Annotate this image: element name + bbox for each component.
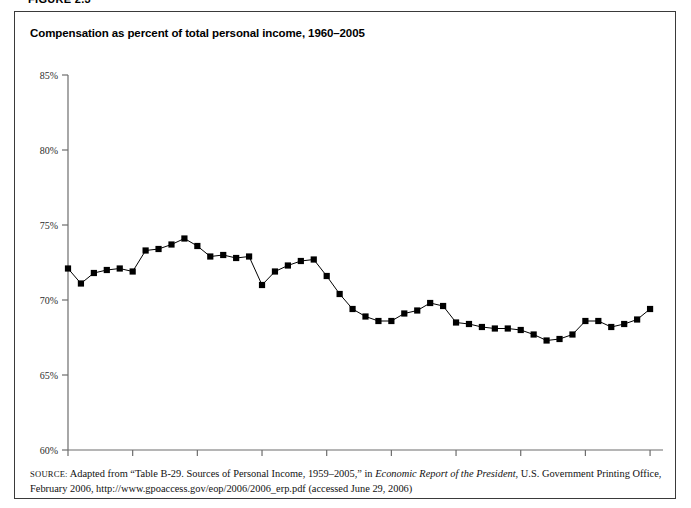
data-point-marker <box>220 252 226 258</box>
data-point-marker <box>311 256 317 262</box>
source-text-b: , U.S. Government Printing Office, <box>516 468 662 479</box>
data-point-marker <box>324 273 330 279</box>
data-point-marker <box>582 318 588 324</box>
line-chart-svg: 60%65%70%75%80%85% 196019651970197519801… <box>15 57 675 462</box>
data-point-marker <box>634 316 640 322</box>
data-point-marker <box>440 303 446 309</box>
data-point-marker <box>194 243 200 249</box>
data-point-marker <box>621 321 627 327</box>
data-point-marker <box>143 247 149 253</box>
data-point-marker <box>492 325 498 331</box>
data-point-marker <box>401 310 407 316</box>
y-axis: 60%65%70%75%80%85% <box>40 70 68 456</box>
data-point-marker <box>531 331 537 337</box>
data-point-marker <box>259 282 265 288</box>
data-point-marker <box>466 321 472 327</box>
data-point-marker <box>285 262 291 268</box>
x-axis-tick-label: 1985 <box>381 460 401 462</box>
source-publication-title: Economic Report of the President <box>375 468 515 479</box>
data-point-marker <box>543 337 549 343</box>
y-axis-tick-label: 80% <box>40 145 58 156</box>
x-axis-tick-label: 1970 <box>187 460 207 462</box>
data-point-marker <box>207 253 213 259</box>
data-point-marker <box>349 306 355 312</box>
figure-label: FIGURE 2.3 <box>28 0 91 5</box>
x-axis: 1960196519701975198019851990199520002005 <box>58 450 663 462</box>
data-point-marker <box>647 306 653 312</box>
data-point-marker <box>595 318 601 324</box>
figure-box: Compensation as percent of total persona… <box>14 11 676 499</box>
x-axis-tick-label: 1990 <box>446 460 466 462</box>
data-point-marker <box>65 265 71 271</box>
data-point-marker <box>130 268 136 274</box>
data-point-marker <box>569 331 575 337</box>
data-point-marker <box>117 265 123 271</box>
y-axis-tick-label: 60% <box>40 445 58 456</box>
y-axis-tick-label: 85% <box>40 70 58 81</box>
data-point-marker <box>414 307 420 313</box>
x-axis-tick-label: 1965 <box>123 460 143 462</box>
data-point-marker <box>298 258 304 264</box>
x-axis-tick-label: 2000 <box>575 460 595 462</box>
source-text-a: Adapted from “Table B-29. Sources of Per… <box>68 468 375 479</box>
y-axis-tick-label: 65% <box>40 370 58 381</box>
data-point-marker <box>427 300 433 306</box>
x-axis-tick-label: 2005 <box>640 460 660 462</box>
data-point-marker <box>556 336 562 342</box>
data-point-marker <box>104 267 110 273</box>
x-axis-tick-label: 1975 <box>252 460 272 462</box>
data-point-marker <box>453 319 459 325</box>
data-point-marker <box>518 327 524 333</box>
x-axis-tick-label: 1960 <box>58 460 78 462</box>
data-point-marker <box>362 313 368 319</box>
y-axis-tick-label: 70% <box>40 295 58 306</box>
y-axis-tick-label: 75% <box>40 220 58 231</box>
data-point-marker <box>168 241 174 247</box>
data-point-marker <box>233 255 239 261</box>
data-series-compensation <box>65 235 653 343</box>
data-point-marker <box>375 318 381 324</box>
data-point-marker <box>246 253 252 259</box>
x-axis-tick-label: 1980 <box>317 460 337 462</box>
data-point-marker <box>181 235 187 241</box>
source-note: SOURCE: Adapted from “Table B-29. Source… <box>30 467 664 495</box>
data-point-marker <box>479 324 485 330</box>
figure-title: Compensation as percent of total persona… <box>30 27 365 39</box>
data-point-marker <box>78 280 84 286</box>
x-axis-tick-label: 1995 <box>511 460 531 462</box>
data-point-marker <box>337 291 343 297</box>
data-point-marker <box>505 325 511 331</box>
data-point-marker <box>91 270 97 276</box>
source-label: SOURCE: <box>30 469 68 479</box>
data-point-marker <box>272 268 278 274</box>
data-point-marker <box>155 246 161 252</box>
data-point-marker <box>608 324 614 330</box>
source-note-line-1: SOURCE: Adapted from “Table B-29. Source… <box>30 467 664 482</box>
chart-plot-area: 60%65%70%75%80%85% 196019651970197519801… <box>15 57 675 462</box>
data-point-marker <box>388 318 394 324</box>
source-note-line-2: February 2006, http://www.gpoaccess.gov/… <box>30 482 664 496</box>
